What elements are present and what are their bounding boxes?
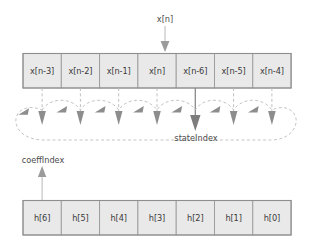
coeff-cell-label: h[3] — [149, 213, 165, 223]
state-cell-3[interactable]: x[n] — [138, 54, 176, 89]
state-cell-label: x[n-1] — [107, 66, 131, 76]
fir-buffer-diagram: x[n] x[n-3] x[n-2] x[n-1] x[n] — [0, 0, 312, 247]
state-cell-1[interactable]: x[n-2] — [61, 54, 99, 89]
coeff-cell-label: h[0] — [264, 213, 280, 223]
state-index-label: stateIndex — [174, 133, 217, 143]
state-cell-label: x[n-4] — [260, 66, 284, 76]
coeff-cell-label: h[4] — [111, 213, 127, 223]
state-cell-6[interactable]: x[n-4] — [253, 54, 291, 89]
state-cell-4[interactable]: x[n-6] — [176, 54, 214, 89]
state-cell-2[interactable]: x[n-1] — [100, 54, 138, 89]
coeff-cell-2[interactable]: h[4] — [100, 201, 138, 236]
coeff-cell-label: h[5] — [72, 213, 88, 223]
coeff-cell-4[interactable]: h[2] — [176, 201, 214, 236]
input-signal-label: x[n] — [157, 14, 173, 24]
state-buffer: x[n-3] x[n-2] x[n-1] x[n] x[n-6] x[n-5] — [23, 54, 291, 89]
coeff-cell-label: h[1] — [225, 213, 241, 223]
input-arrow — [161, 26, 170, 52]
coeff-cell-label: h[2] — [187, 213, 203, 223]
state-cell-label: x[n-5] — [222, 66, 246, 76]
state-cell-5[interactable]: x[n-5] — [215, 54, 253, 89]
diagram-canvas: x[n] x[n-3] x[n-2] x[n-1] x[n] — [0, 0, 312, 247]
state-tap-arrowheads — [38, 111, 275, 125]
coeff-cell-0[interactable]: h[6] — [23, 201, 61, 236]
coefficient-buffer: h[6] h[5] h[4] h[3] h[2] h[1] — [23, 201, 291, 236]
state-cell-label: x[n-3] — [30, 66, 54, 76]
state-cell-label: x[n-2] — [68, 66, 92, 76]
state-tap-lines — [42, 88, 272, 112]
coeff-index-label: coeffIndex — [22, 155, 65, 165]
coeff-cell-1[interactable]: h[5] — [61, 201, 99, 236]
coeff-cell-3[interactable]: h[3] — [138, 201, 176, 236]
coeff-cell-label: h[6] — [34, 213, 50, 223]
state-cell-label: x[n-6] — [183, 66, 207, 76]
state-cell-label: x[n] — [149, 66, 165, 76]
state-cell-0[interactable]: x[n-3] — [23, 54, 61, 89]
coeff-index-pointer — [38, 166, 46, 200]
coeff-cell-6[interactable]: h[0] — [253, 201, 291, 236]
coeff-cell-5[interactable]: h[1] — [215, 201, 253, 236]
